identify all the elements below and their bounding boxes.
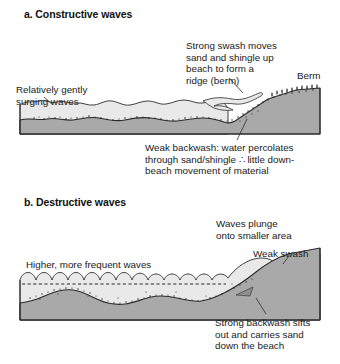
panel-a-title: a. Constructive waves [24,8,132,20]
panel-b-title: b. Destructive waves [24,196,126,208]
panel-destructive-waves: b. Destructive waves Waves plunge onto s… [0,186,340,364]
wave-diagram-figure: a. Constructive waves Relatively gently … [0,0,340,364]
label-waves-plunge: Waves plunge onto smaller area [216,218,336,241]
panel-constructive-waves: a. Constructive waves Relatively gently … [0,0,340,186]
label-strong-backwash: Strong backwash sifts out and carries sa… [215,317,340,352]
label-berm: Berm [297,70,340,82]
label-gentle-surging-waves: Relatively gently surging waves [16,84,126,107]
label-weak-swash: Weak swash [253,248,339,260]
label-weak-backwash: Weak backwash: water percolates through … [145,142,340,177]
label-higher-more-frequent-waves: Higher, more frequent waves [26,259,206,271]
